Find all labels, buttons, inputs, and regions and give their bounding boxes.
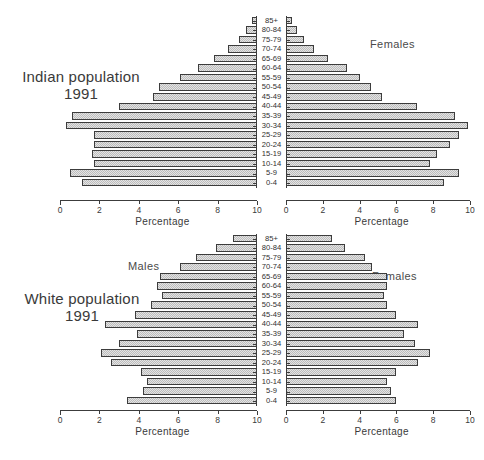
x-axis-title-white-right: Percentage: [355, 426, 409, 437]
y-tick: [287, 145, 290, 146]
pyramid-row: [286, 45, 470, 55]
y-axis-spine-left: [256, 16, 257, 188]
pyramid-row: [286, 377, 470, 387]
pyramid-row: [60, 150, 257, 160]
bar-indian-left-35-39: [72, 112, 257, 120]
y-tick: [287, 49, 290, 50]
age-label-55-59: 55-59: [257, 291, 286, 301]
pyramid-row: [60, 121, 257, 131]
bar-indian-right-30-34: [286, 122, 468, 130]
x-tick-label: 8: [215, 415, 220, 425]
pyramid-row: [60, 358, 257, 368]
x-axis-line-indian-left: [60, 200, 257, 201]
pyramid-row: [60, 368, 257, 378]
x-tick: [360, 201, 361, 204]
pyramid-row: [286, 291, 470, 301]
age-label-5-9: 5-9: [257, 386, 286, 396]
bar-indian-left-10-14: [94, 160, 258, 168]
pyramid-row: [286, 263, 470, 273]
bar-indian-right-50-54: [286, 83, 371, 91]
x-tick: [99, 411, 100, 414]
pyramid-row: [60, 310, 257, 320]
x-tick-label: 8: [431, 415, 436, 425]
y-tick: [287, 40, 290, 41]
age-label-60-64: 60-64: [257, 63, 286, 73]
pyramid-row: [60, 253, 257, 263]
x-tick-label: 2: [320, 205, 325, 215]
y-tick: [253, 258, 256, 259]
pyramid-row: [60, 377, 257, 387]
y-axis-spine-left: [256, 234, 257, 406]
y-tick: [253, 239, 256, 240]
bar-indian-right-15-19: [286, 150, 437, 158]
y-tick: [287, 30, 290, 31]
bars-white-right: [286, 234, 470, 406]
bar-white-left-20-24: [111, 359, 257, 367]
bar-indian-left-65-69: [214, 55, 257, 63]
bar-indian-left-40-44: [119, 103, 257, 111]
y-tick: [287, 325, 290, 326]
x-tick-label: 8: [431, 205, 436, 215]
bar-white-right-80-84: [286, 244, 345, 252]
y-tick: [287, 392, 290, 393]
bar-indian-left-20-24: [94, 141, 258, 149]
x-axis-line-white-right: [286, 410, 470, 411]
females-half-white: 0246810Percentage: [286, 228, 470, 460]
y-tick: [287, 382, 290, 383]
y-tick: [253, 69, 256, 70]
pyramid-row: [60, 64, 257, 74]
y-tick: [253, 372, 256, 373]
y-tick: [253, 40, 256, 41]
bar-indian-right-55-59: [286, 74, 360, 82]
x-tick: [218, 411, 219, 414]
bar-white-left-60-64: [157, 282, 257, 290]
age-label-20-24: 20-24: [257, 358, 286, 368]
bar-indian-right-45-49: [286, 93, 382, 101]
pyramid-row: [60, 387, 257, 397]
bar-white-left-5-9: [143, 387, 257, 395]
bar-white-right-65-69: [286, 273, 387, 281]
y-tick: [287, 88, 290, 89]
x-axis-title-white-left: Percentage: [135, 426, 189, 437]
y-tick: [253, 88, 256, 89]
pyramid-row: [60, 178, 257, 188]
y-tick: [287, 69, 290, 70]
x-tick: [178, 201, 179, 204]
bar-white-right-30-34: [286, 340, 415, 348]
bar-indian-left-15-19: [92, 150, 257, 158]
pyramid-row: [60, 169, 257, 179]
bar-white-left-15-19: [141, 368, 257, 376]
pyramid-row: [286, 83, 470, 93]
pyramid-row: [286, 358, 470, 368]
y-tick: [253, 183, 256, 184]
age-label-15-19: 15-19: [257, 149, 286, 159]
bar-white-left-80-84: [216, 244, 257, 252]
pyramid-row: [286, 368, 470, 378]
x-tick: [323, 411, 324, 414]
pyramid-row: [60, 263, 257, 273]
y-tick: [287, 334, 290, 335]
pyramid-row: [286, 253, 470, 263]
bar-white-right-60-64: [286, 282, 387, 290]
x-tick: [396, 411, 397, 414]
bar-white-right-85plus: [286, 235, 332, 243]
y-tick: [253, 392, 256, 393]
y-tick: [253, 154, 256, 155]
y-tick: [287, 97, 290, 98]
bar-indian-right-35-39: [286, 112, 455, 120]
bar-indian-right-5-9: [286, 169, 459, 177]
pyramid-row: [60, 45, 257, 55]
y-tick: [287, 135, 290, 136]
males-half-white: 1086420Percentage: [60, 228, 257, 460]
pyramid-row: [60, 301, 257, 311]
age-label-30-34: 30-34: [257, 121, 286, 131]
pyramid-row: [286, 396, 470, 406]
bar-white-right-40-44: [286, 321, 418, 329]
age-label-85plus: 85+: [257, 234, 286, 244]
x-tick-label: 6: [176, 415, 181, 425]
x-tick-label: 4: [357, 415, 362, 425]
y-tick: [287, 116, 290, 117]
x-tick: [396, 201, 397, 204]
y-tick: [287, 183, 290, 184]
bar-white-left-55-59: [162, 292, 257, 300]
